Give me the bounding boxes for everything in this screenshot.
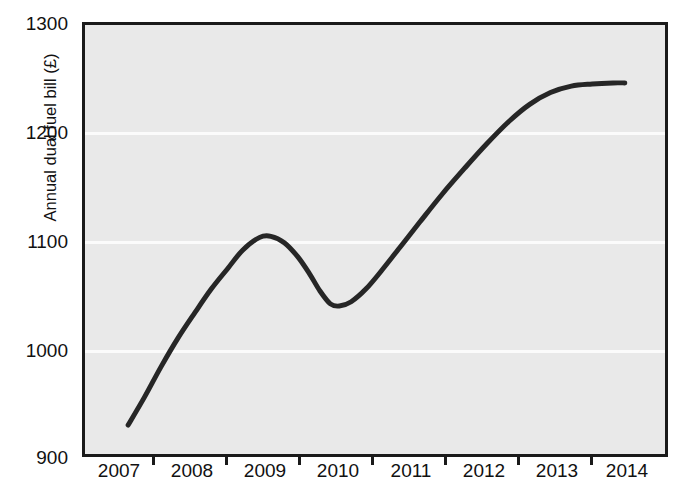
y-tick-label-1100: 1100 <box>6 232 68 251</box>
x-tick-label-2012: 2012 <box>447 461 521 480</box>
x-tick-label-2011: 2011 <box>374 461 448 480</box>
y-tick-label-1000: 1000 <box>6 341 68 360</box>
series-path-annual-dual-fuel-bill <box>128 83 625 425</box>
y-tick-label-900: 900 <box>6 448 68 467</box>
x-tick-label-2013: 2013 <box>520 461 594 480</box>
chart-figure: Annual dual fuel bill (£) 1300 1200 1100… <box>0 0 674 490</box>
y-tick-label-1300: 1300 <box>6 14 68 33</box>
x-tick-label-2010: 2010 <box>301 461 375 480</box>
series-line-chart <box>85 25 665 454</box>
x-tick-label-2007: 2007 <box>82 461 156 480</box>
x-tick-label-2009: 2009 <box>228 461 302 480</box>
y-tick-label-1200: 1200 <box>6 123 68 142</box>
x-tick-label-2014: 2014 <box>590 461 664 480</box>
plot-area <box>82 22 668 457</box>
x-tick-label-2008: 2008 <box>155 461 229 480</box>
